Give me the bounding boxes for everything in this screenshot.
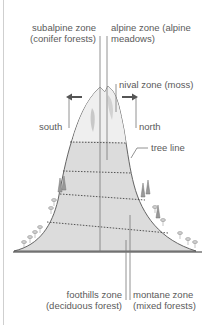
alpine-line1: alpine zone (alpine bbox=[111, 22, 191, 33]
foothills-line1: foothills zone bbox=[46, 289, 122, 300]
subalpine-line1: subalpine zone bbox=[30, 22, 96, 33]
alpine-zone-label: alpine zone (alpine meadows) bbox=[111, 22, 191, 44]
subalpine-zone-label: subalpine zone (conifer forests) bbox=[30, 22, 96, 44]
upper-zone bbox=[72, 86, 126, 143]
alpine-line2: meadows) bbox=[111, 33, 191, 44]
north-label: north bbox=[139, 121, 161, 132]
montane-line2: (mixed forests) bbox=[133, 300, 196, 311]
arrow-left-icon bbox=[66, 94, 82, 101]
mountain-diagram bbox=[0, 0, 210, 325]
nival-zone-label: nival zone (moss) bbox=[119, 79, 193, 90]
foothills-line2: (deciduous forest) bbox=[46, 300, 122, 311]
tree-line-leader bbox=[131, 148, 148, 158]
tree-line-label: tree line bbox=[151, 142, 185, 153]
foothills-zone-label: foothills zone (deciduous forest) bbox=[46, 289, 122, 311]
south-label: south bbox=[39, 121, 62, 132]
montane-line1: montane zone bbox=[133, 289, 196, 300]
montane-zone-label: montane zone (mixed forests) bbox=[133, 289, 196, 311]
subalpine-line2: (conifer forests) bbox=[30, 33, 96, 44]
